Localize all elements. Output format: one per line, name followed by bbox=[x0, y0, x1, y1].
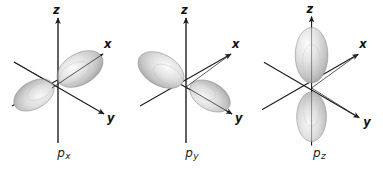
axis-label-x: x bbox=[103, 37, 112, 51]
caption-px-base: p bbox=[57, 146, 65, 160]
axis-label-z: z bbox=[180, 3, 188, 17]
orbital-diagram-py: x y z bbox=[128, 0, 256, 170]
caption-pz-base: p bbox=[313, 146, 321, 160]
axis-label-y: y bbox=[363, 115, 371, 129]
orbital-lobe-positive bbox=[132, 44, 191, 96]
orbital-panel-px: x y z px bbox=[0, 0, 128, 170]
axis-label-x: x bbox=[231, 37, 240, 51]
axis-label-z: z bbox=[52, 3, 60, 17]
orbital-panel-pz: x y z pz bbox=[256, 0, 383, 170]
axis-label-x: x bbox=[358, 37, 367, 51]
caption-pz-subscript: z bbox=[321, 151, 326, 161]
caption-px: px bbox=[0, 146, 128, 161]
caption-py-base: p bbox=[185, 146, 193, 160]
orbital-lobe-negative bbox=[8, 72, 60, 117]
orbital-panel-py: x y z py bbox=[128, 0, 256, 170]
p-orbital-figure: x y z px bbox=[0, 0, 383, 170]
axis-label-z: z bbox=[306, 2, 314, 16]
caption-pz: pz bbox=[256, 146, 383, 161]
axis-label-y: y bbox=[107, 111, 115, 125]
orbital-diagram-px: x y z bbox=[0, 0, 128, 170]
caption-px-subscript: x bbox=[65, 151, 71, 161]
caption-py-subscript: y bbox=[193, 151, 199, 161]
orbital-diagram-pz: x y z bbox=[256, 0, 383, 170]
caption-py: py bbox=[128, 146, 256, 161]
axis-label-y: y bbox=[235, 111, 243, 125]
